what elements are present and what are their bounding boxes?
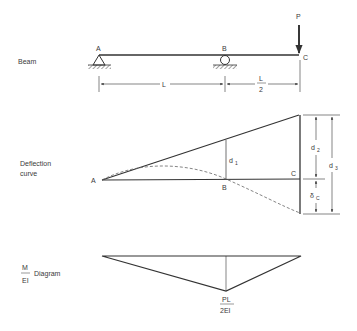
svg-text:d: d bbox=[329, 162, 333, 169]
moment-label-text: Diagram bbox=[34, 270, 61, 278]
svg-text:d: d bbox=[311, 144, 315, 151]
span-bc-num: L bbox=[259, 75, 263, 82]
svg-text:3: 3 bbox=[335, 165, 338, 171]
moment-peak-den: 2EI bbox=[220, 307, 231, 314]
svg-text:1: 1 bbox=[235, 160, 238, 166]
d2-label: d 2 bbox=[311, 144, 320, 153]
span-ab-label: L bbox=[162, 81, 166, 88]
beam-point-b: B bbox=[222, 45, 227, 52]
svg-text:d: d bbox=[229, 157, 233, 164]
span-bc-den: 2 bbox=[259, 86, 263, 93]
defl-point-c: C bbox=[291, 170, 296, 177]
beam-deflection-diagram: Beam A B P C L L 2 bbox=[0, 0, 357, 331]
beam-section: Beam A B P C L L 2 bbox=[18, 13, 308, 93]
svg-text:2: 2 bbox=[317, 147, 320, 153]
roller-support-b-icon bbox=[213, 56, 237, 70]
svg-text:C: C bbox=[316, 195, 320, 201]
deflection-section: Deflection curve A B C d 1 d 2 bbox=[20, 115, 340, 214]
d1-label: d 1 bbox=[229, 157, 238, 166]
moment-label-den: EI bbox=[22, 277, 29, 284]
beam-point-c: C bbox=[303, 54, 308, 61]
delta-c-label: δ C bbox=[310, 192, 320, 201]
svg-text:δ: δ bbox=[310, 192, 314, 199]
moment-triangle bbox=[102, 256, 301, 291]
d3-label: d 3 bbox=[329, 162, 338, 171]
beam-point-a: A bbox=[96, 45, 101, 52]
beam-label: Beam bbox=[18, 58, 36, 65]
deflection-label-1: Deflection bbox=[20, 160, 51, 167]
defl-point-b: B bbox=[222, 184, 227, 191]
elastic-curve bbox=[102, 166, 300, 213]
deflection-label-2: curve bbox=[20, 170, 37, 177]
load-label: P bbox=[296, 13, 301, 20]
pin-support-a-icon bbox=[88, 55, 111, 69]
moment-diagram-section: M EI Diagram PL 2EI bbox=[21, 256, 301, 314]
moment-peak-num: PL bbox=[222, 296, 231, 303]
baseline bbox=[102, 179, 300, 180]
moment-label-num: M bbox=[22, 264, 28, 271]
defl-point-a: A bbox=[91, 177, 96, 184]
